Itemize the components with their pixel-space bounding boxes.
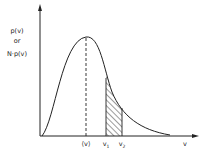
distribution-diagram: p(v) or N·p(v) ⟨v⟩ v1 v2 v	[0, 0, 211, 165]
v1-label: v1	[103, 140, 110, 149]
x-axis-arrow-icon	[192, 134, 199, 138]
y-axis-arrow-icon	[38, 4, 42, 11]
y-label-line3: N·p(v)	[7, 50, 27, 58]
v2-label: v2	[119, 140, 126, 149]
mean-label: ⟨v⟩	[82, 140, 91, 148]
x-axis-label: v	[183, 140, 187, 148]
y-label-line2: or	[14, 37, 21, 45]
y-label-line1: p(v)	[10, 27, 23, 35]
